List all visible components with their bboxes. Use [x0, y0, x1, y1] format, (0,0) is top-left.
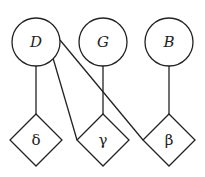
diagram-canvas: D G B δ γ β	[0, 0, 205, 177]
label-beta: β	[165, 131, 174, 149]
label-D: D	[29, 33, 42, 51]
label-G: G	[97, 33, 109, 51]
label-delta: δ	[31, 131, 40, 149]
label-B: B	[162, 33, 174, 51]
edge-D-gamma	[53, 58, 77, 140]
label-gamma: γ	[99, 131, 108, 149]
